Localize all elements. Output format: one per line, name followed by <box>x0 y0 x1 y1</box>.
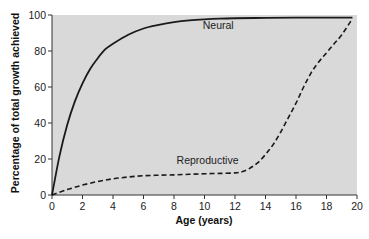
y-axis-title: Percentage of total growth achieved <box>9 13 21 193</box>
growth-chart: 02468101214161820 020406080100 NeuralRep… <box>0 0 369 239</box>
y-tick-label: 100 <box>28 9 46 21</box>
x-tick-label: 20 <box>351 200 363 212</box>
x-tick-label: 4 <box>110 200 116 212</box>
x-tick-label: 16 <box>290 200 302 212</box>
x-axis: 02468101214161820 <box>49 195 363 212</box>
x-tick-label: 10 <box>199 200 211 212</box>
x-tick-label: 18 <box>321 200 333 212</box>
y-tick-label: 60 <box>34 81 46 93</box>
x-tick-label: 8 <box>171 200 177 212</box>
y-tick-label: 0 <box>40 189 46 201</box>
x-tick-label: 12 <box>229 200 241 212</box>
x-axis-title: Age (years) <box>175 214 232 226</box>
y-axis: 020406080100 <box>28 9 52 201</box>
plot-background <box>52 15 357 195</box>
x-tick-label: 14 <box>260 200 272 212</box>
y-tick-label: 40 <box>34 117 46 129</box>
x-tick-label: 2 <box>80 200 86 212</box>
y-tick-label: 20 <box>34 153 46 165</box>
y-tick-label: 80 <box>34 45 46 57</box>
series-label-reproductive: Reproductive <box>177 154 239 166</box>
x-tick-label: 6 <box>141 200 147 212</box>
series-label-neural: Neural <box>203 19 234 31</box>
x-tick-label: 0 <box>49 200 55 212</box>
